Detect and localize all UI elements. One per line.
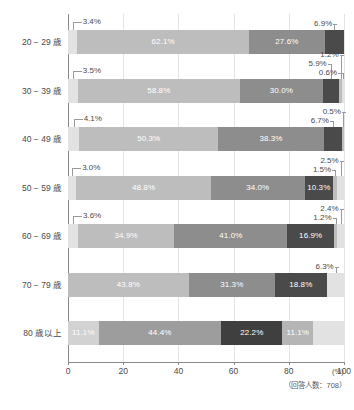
- callout-label: 6.3%: [315, 263, 333, 271]
- bar-row[interactable]: 3.4%62.1%27.6%6.9%: [68, 30, 344, 54]
- bar-segment[interactable]: 4.1%: [68, 127, 79, 151]
- category-label: 80 歳以上: [0, 329, 62, 338]
- segment-value-label: 48.8%: [132, 184, 155, 192]
- bar-segment[interactable]: 5.9%: [323, 79, 339, 103]
- bar-segment[interactable]: 41.0%: [174, 224, 287, 248]
- respondent-count-note: （回答人数：708）: [284, 381, 346, 390]
- bar-segment[interactable]: 58.8%: [78, 79, 240, 103]
- leader-line: [334, 24, 335, 30]
- segment-value-label: 16.9%: [299, 232, 322, 240]
- x-tick-label: 80: [284, 367, 293, 376]
- bar-segment[interactable]: 62.1%: [77, 30, 248, 54]
- bar-track: 3.5%58.8%30.0%5.9%1.2%0.6%: [68, 79, 344, 103]
- bar-segment[interactable]: 0.5%: [342, 127, 343, 151]
- callout-label: 3.4%: [83, 18, 101, 26]
- bar-segment[interactable]: 38.3%: [218, 127, 324, 151]
- bar-track: 11.1%44.4%22.2%11.1%11.1%: [68, 321, 344, 345]
- segment-value-label: 34.0%: [246, 184, 269, 192]
- category-label: 60 − 69 歳: [0, 232, 62, 241]
- segment-value-label: 11.1%: [286, 329, 309, 337]
- bar-segment[interactable]: 48.8%: [76, 176, 211, 200]
- callout-label: 5.9%: [308, 60, 326, 68]
- callout-label: 4.1%: [84, 115, 102, 123]
- bar-segment[interactable]: 22.2%: [221, 321, 282, 345]
- segment-value-label: 27.6%: [275, 38, 298, 46]
- bar-segment[interactable]: 43.8%: [68, 273, 189, 297]
- bar-segment[interactable]: 34.9%: [78, 224, 174, 248]
- x-tick-mark-60: [234, 362, 235, 365]
- bar-segment[interactable]: 16.9%: [287, 224, 334, 248]
- leader-line: [335, 170, 336, 176]
- bar-row[interactable]: 11.1%44.4%22.2%11.1%11.1%: [68, 321, 344, 345]
- bar-segment[interactable]: 34.0%: [211, 176, 305, 200]
- bar-segment[interactable]: 3.0%: [68, 176, 76, 200]
- bar-track: 4.1%50.3%38.3%6.7%0.5%: [68, 127, 344, 151]
- bar-segment[interactable]: 3.5%: [68, 79, 78, 103]
- callout-label: 2.4%: [320, 205, 338, 213]
- callout-label: 1.5%: [313, 166, 331, 174]
- bar-segment[interactable]: 11.1%: [68, 321, 99, 345]
- bar-segment[interactable]: 6.7%: [324, 127, 342, 151]
- bar-segment[interactable]: 2.4%: [337, 224, 344, 248]
- leader-line: [341, 161, 342, 176]
- x-tick-label: 20: [118, 367, 127, 376]
- bar-track: 43.8%31.3%18.8%6.3%: [68, 273, 344, 297]
- bar-segment[interactable]: 6.3%: [327, 273, 344, 297]
- callout-label: 3.5%: [83, 67, 101, 75]
- segment-value-label: 50.3%: [137, 135, 160, 143]
- leader-line: [341, 55, 342, 79]
- x-tick-label: 60: [229, 367, 238, 376]
- leader-line: [73, 22, 74, 30]
- leader-line: [72, 168, 81, 169]
- segment-value-label: 11.1%: [72, 329, 95, 337]
- x-axis-line: [68, 362, 345, 363]
- bar-segment[interactable]: 3.4%: [68, 30, 77, 54]
- segment-value-label: 10.3%: [307, 184, 330, 192]
- bar-segment[interactable]: 3.6%: [68, 224, 78, 248]
- bar-segment[interactable]: 50.3%: [79, 127, 218, 151]
- bar-segment[interactable]: 18.8%: [275, 273, 327, 297]
- bar-row[interactable]: 3.5%58.8%30.0%5.9%1.2%0.6%: [68, 79, 344, 103]
- bar-segment[interactable]: 10.3%: [305, 176, 333, 200]
- bar-segment[interactable]: 44.4%: [99, 321, 222, 345]
- category-label: 70 − 79 歳: [0, 281, 62, 290]
- leader-line: [341, 209, 342, 224]
- x-tick-mark-100: [344, 362, 345, 365]
- bar-segment[interactable]: 0.6%: [342, 79, 344, 103]
- gridline-100: [344, 14, 345, 362]
- bar-segment[interactable]: 11.1%: [282, 321, 313, 345]
- bar-segment[interactable]: 11.1%: [313, 321, 344, 345]
- segment-value-label: 44.4%: [148, 329, 171, 337]
- x-tick-mark-40: [178, 362, 179, 365]
- category-label: 20 − 29 歳: [0, 38, 62, 47]
- x-tick-label: 0: [66, 367, 71, 376]
- category-label: 40 − 49 歳: [0, 135, 62, 144]
- segment-value-label: 34.9%: [114, 232, 137, 240]
- bar-segment[interactable]: 27.6%: [249, 30, 325, 54]
- callout-label: 0.6%: [319, 69, 337, 77]
- leader-line: [74, 119, 83, 120]
- segment-value-label: 43.8%: [117, 281, 140, 289]
- category-label: 50 − 59 歳: [0, 184, 62, 193]
- bar-segment[interactable]: 2.5%: [337, 176, 344, 200]
- leader-line: [333, 121, 334, 127]
- leader-line: [343, 112, 344, 127]
- callout-label: 2.5%: [320, 157, 338, 165]
- bar-segment[interactable]: 30.0%: [240, 79, 323, 103]
- leader-line: [73, 216, 74, 224]
- segment-value-label: 41.0%: [219, 232, 242, 240]
- segment-value-label: 62.1%: [151, 38, 174, 46]
- x-tick-label: 40: [174, 367, 183, 376]
- bar-row[interactable]: 4.1%50.3%38.3%6.7%0.5%: [68, 127, 344, 151]
- leader-line: [72, 168, 73, 176]
- bar-row[interactable]: 3.0%48.8%34.0%10.3%1.5%2.5%: [68, 176, 344, 200]
- bar-row[interactable]: 43.8%31.3%18.8%6.3%: [68, 273, 344, 297]
- leader-line: [73, 22, 82, 23]
- callout-label: 6.7%: [311, 117, 329, 125]
- callout-label: 0.5%: [323, 108, 341, 116]
- callout-label: 1.2%: [313, 214, 331, 222]
- bar-row[interactable]: 3.6%34.9%41.0%16.9%1.2%2.4%: [68, 224, 344, 248]
- segment-value-label: 31.3%: [220, 281, 243, 289]
- bar-segment[interactable]: 31.3%: [189, 273, 275, 297]
- segment-value-label: 30.0%: [270, 87, 293, 95]
